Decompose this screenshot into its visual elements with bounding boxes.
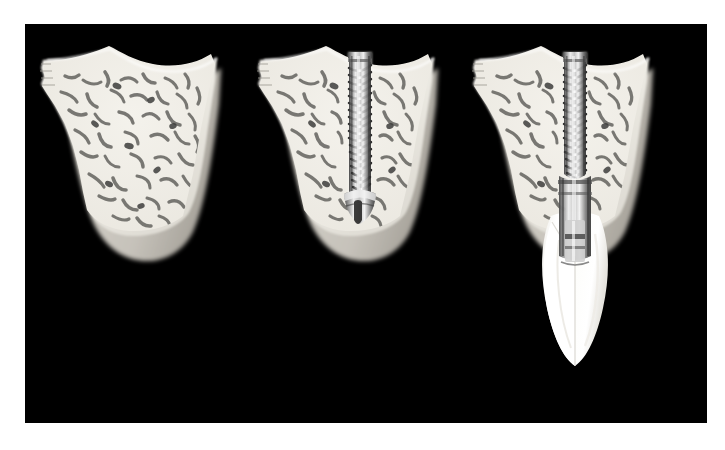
panel-1-graphic [25, 24, 265, 423]
panel-edentulous-jaw [25, 24, 265, 423]
panel-implant-placed [240, 24, 480, 423]
illustration-figure: Dental implant placement stages Stage 1 … [0, 0, 725, 450]
threaded-implant-body [348, 52, 372, 203]
panel-3-graphic [455, 24, 707, 423]
retaining-screw [561, 220, 589, 265]
panel-2-graphic [240, 24, 480, 423]
illustration-plate [25, 24, 707, 423]
panel-restored-implant [455, 24, 707, 423]
threaded-implant-body [563, 52, 587, 182]
